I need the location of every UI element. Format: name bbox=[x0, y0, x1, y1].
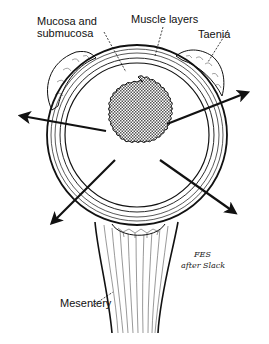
taenia-left bbox=[47, 51, 96, 110]
label-muscle-layers: Muscle layers bbox=[131, 13, 198, 25]
label-mesentery: Mesentery bbox=[60, 297, 111, 309]
mucosa-submucosa bbox=[109, 76, 173, 143]
mesentery bbox=[95, 222, 178, 333]
label-taenia: Taenia bbox=[198, 28, 230, 40]
fat-pad-bottom bbox=[112, 224, 165, 238]
arrow-left bbox=[22, 116, 106, 131]
label-mucosa-line1: Mucosa and bbox=[37, 15, 97, 27]
signature-credit: after Slack bbox=[181, 261, 225, 270]
signature-initials: FES bbox=[194, 250, 211, 259]
label-mucosa-line2: submucosa bbox=[37, 27, 93, 39]
colon-cross-section-diagram bbox=[0, 0, 269, 344]
arrow-upper-right bbox=[167, 93, 246, 124]
